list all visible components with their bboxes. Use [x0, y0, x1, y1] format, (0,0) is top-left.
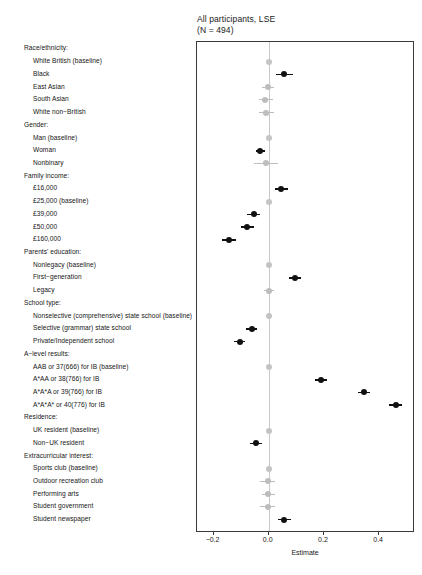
- group-header-label: Gender:: [24, 121, 48, 128]
- x-axis: −0.20.00.20.4: [196, 532, 414, 562]
- level-label: Sports club (baseline): [33, 464, 98, 471]
- estimate-point: [266, 59, 272, 65]
- level-label: Legacy: [33, 286, 55, 293]
- x-axis-tick: [213, 532, 214, 535]
- estimate-row: [197, 363, 413, 372]
- estimate-point: [244, 224, 250, 230]
- x-axis-tick-label: 0.0: [263, 536, 273, 543]
- x-axis-tick: [268, 532, 269, 535]
- estimate-row: [197, 388, 413, 397]
- estimate-point: [263, 160, 269, 166]
- estimate-row: [197, 95, 413, 104]
- level-label: A*A*A or 39(766) for IB: [33, 388, 102, 395]
- estimate-row: [197, 324, 413, 333]
- chart-title-line2: (N = 494): [197, 25, 234, 35]
- x-axis-tick: [323, 532, 324, 535]
- group-header-label: School type:: [24, 299, 61, 306]
- estimate-row: [197, 273, 413, 282]
- group-header-label: Family income:: [24, 172, 69, 179]
- level-label: £25,000 (baseline): [33, 197, 89, 204]
- estimate-point: [278, 186, 284, 192]
- group-header-label: Extracurricular interest:: [24, 452, 93, 459]
- estimate-row: [197, 426, 413, 435]
- estimate-row: [197, 286, 413, 295]
- chart-title: All participants, LSE(N = 494): [197, 14, 275, 36]
- x-axis-tick: [378, 532, 379, 535]
- estimate-row: [197, 502, 413, 511]
- estimate-row: [197, 57, 413, 66]
- level-label: Woman: [33, 146, 56, 153]
- x-axis-tick-label: −0.2: [206, 536, 220, 543]
- level-label: AAB or 37(666) for IB (baseline): [33, 363, 128, 370]
- estimate-row: [197, 401, 413, 410]
- x-axis-tick-label: 0.4: [373, 536, 383, 543]
- level-label: A*A*A* or 40(776) for IB: [33, 401, 105, 408]
- group-header-label: Race/ethnicity:: [24, 44, 68, 51]
- level-label: Student government: [33, 502, 93, 509]
- x-axis-tick-label: 0.2: [318, 536, 328, 543]
- level-label: £160,000: [33, 235, 61, 242]
- estimate-point: [253, 440, 259, 446]
- level-label: Man (baseline): [33, 134, 77, 141]
- estimate-point: [265, 478, 271, 484]
- estimate-row: [197, 235, 413, 244]
- level-label: UK resident (baseline): [33, 426, 99, 433]
- estimate-point: [393, 402, 399, 408]
- estimate-point: [266, 199, 272, 205]
- estimate-point: [266, 262, 272, 268]
- estimate-point: [263, 110, 269, 116]
- estimate-row: [197, 490, 413, 499]
- estimate-row: [197, 197, 413, 206]
- estimate-point: [292, 275, 298, 281]
- estimate-row: [197, 108, 413, 117]
- estimate-row: [197, 223, 413, 232]
- estimate-point: [266, 313, 272, 319]
- group-header-label: A−level results:: [24, 350, 70, 357]
- estimate-point: [226, 237, 232, 243]
- estimate-point: [257, 148, 263, 154]
- level-label: £50,000: [33, 223, 57, 230]
- estimate-row: [197, 439, 413, 448]
- estimate-row: [197, 210, 413, 219]
- plot-panel: [196, 41, 414, 532]
- x-axis-label: Estimate: [196, 549, 414, 556]
- estimate-row: [197, 464, 413, 473]
- estimate-point: [266, 135, 272, 141]
- estimate-point: [237, 339, 243, 345]
- estimate-point: [249, 326, 255, 332]
- estimate-row: [197, 70, 413, 79]
- level-label: Selective (grammar) state school: [33, 324, 131, 331]
- level-label: Non−UK resident: [33, 439, 84, 446]
- level-label: Outdoor recreation club: [33, 477, 103, 484]
- level-label: Performing arts: [33, 490, 79, 497]
- level-label: £39,000: [33, 210, 57, 217]
- estimate-row: [197, 146, 413, 155]
- level-label: Private/Independent school: [33, 337, 114, 344]
- estimate-row: [197, 184, 413, 193]
- estimate-row: [197, 83, 413, 92]
- level-label: A*AA or 38(766) for IB: [33, 375, 99, 382]
- level-label: Student newspaper: [33, 515, 91, 522]
- estimate-point: [281, 517, 287, 523]
- estimate-row: [197, 312, 413, 321]
- level-label: Black: [33, 70, 49, 77]
- estimate-row: [197, 337, 413, 346]
- estimate-point: [251, 211, 257, 217]
- level-label: Nonlegacy (baseline): [33, 261, 96, 268]
- group-header-label: Parents' education:: [24, 248, 81, 255]
- estimate-point: [266, 288, 272, 294]
- estimate-point: [318, 377, 324, 383]
- estimate-point: [265, 504, 271, 510]
- level-label: Nonbinary: [33, 159, 64, 166]
- estimate-point: [266, 466, 272, 472]
- estimate-point: [265, 84, 271, 90]
- level-label: £16,000: [33, 184, 57, 191]
- estimate-row: [197, 477, 413, 486]
- level-label: South Asian: [33, 95, 69, 102]
- estimate-point: [281, 71, 287, 77]
- estimate-point: [265, 491, 271, 497]
- estimate-row: [197, 134, 413, 143]
- level-label: Nonselective (comprehensive) state schoo…: [33, 312, 192, 319]
- chart-title-line1: All participants, LSE: [197, 14, 275, 24]
- estimate-point: [266, 428, 272, 434]
